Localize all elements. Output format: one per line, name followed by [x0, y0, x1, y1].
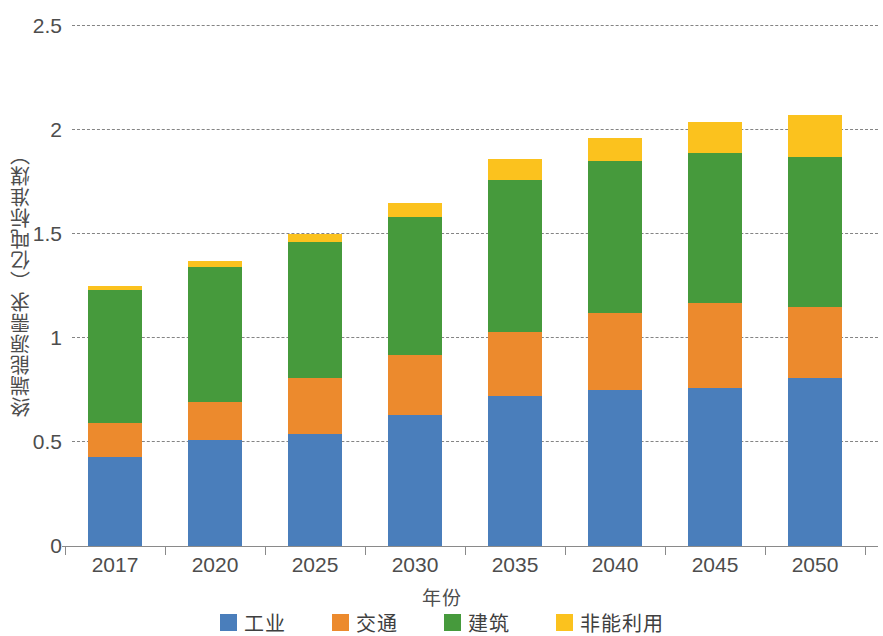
y-tick-label: 0: [6, 534, 62, 558]
x-tick-mark: [165, 546, 166, 555]
bar-segment-2030-工业[interactable]: [388, 415, 442, 546]
chart-legend: 工业交通建筑非能利用: [0, 608, 883, 636]
bar-segment-2050-交通[interactable]: [788, 307, 842, 378]
legend-swatch-icon: [332, 614, 349, 631]
x-axis-title: 年份: [0, 583, 883, 610]
bar-segment-2017-建筑[interactable]: [88, 290, 142, 423]
x-tick-label-2017: 2017: [70, 553, 160, 577]
y-axis-title-text: 终端能源需求（亿吨标准煤）: [6, 144, 35, 417]
y-tick-label: 2: [6, 118, 62, 142]
plot-area: [72, 26, 878, 546]
bar-segment-2025-交通[interactable]: [288, 378, 342, 434]
bar-segment-2040-建筑[interactable]: [588, 161, 642, 313]
x-tick-mark: [765, 546, 766, 555]
bar-segment-2050-非能利用[interactable]: [788, 115, 842, 157]
bar-segment-2017-工业[interactable]: [88, 457, 142, 546]
y-axis-title: 终端能源需求（亿吨标准煤）: [0, 0, 40, 560]
x-tick-mark: [65, 546, 66, 555]
bar-segment-2050-工业[interactable]: [788, 378, 842, 546]
bar-segment-2050-建筑[interactable]: [788, 157, 842, 307]
legend-item-交通[interactable]: 交通: [332, 608, 398, 636]
bar-segment-2045-工业[interactable]: [688, 388, 742, 546]
x-tick-mark: [565, 546, 566, 555]
legend-label: 建筑: [468, 608, 510, 636]
bar-segment-2025-非能利用[interactable]: [288, 234, 342, 242]
stacked-bar-chart: 终端能源需求（亿吨标准煤） 00.511.522.5 2017202020252…: [0, 0, 883, 636]
bar-segment-2025-建筑[interactable]: [288, 242, 342, 377]
bar-segment-2020-非能利用[interactable]: [188, 261, 242, 267]
x-tick-label-2025: 2025: [270, 553, 360, 577]
x-tick-label-2050: 2050: [770, 553, 860, 577]
bar-segment-2035-交通[interactable]: [488, 332, 542, 396]
y-tick-label: 1.5: [6, 222, 62, 246]
bar-segment-2045-建筑[interactable]: [688, 153, 742, 303]
x-axis-line: [62, 546, 878, 547]
legend-label: 非能利用: [580, 608, 664, 636]
legend-item-建筑[interactable]: 建筑: [444, 608, 510, 636]
bar-segment-2025-工业[interactable]: [288, 434, 342, 546]
x-tick-mark: [365, 546, 366, 555]
bar-segment-2030-非能利用[interactable]: [388, 203, 442, 218]
gridline-2: [72, 129, 878, 130]
bar-segment-2030-建筑[interactable]: [388, 217, 442, 354]
legend-item-工业[interactable]: 工业: [220, 608, 286, 636]
x-tick-mark: [465, 546, 466, 555]
x-tick-label-2030: 2030: [370, 553, 460, 577]
bar-segment-2017-非能利用[interactable]: [88, 286, 142, 290]
x-tick-mark: [665, 546, 666, 555]
legend-swatch-icon: [556, 614, 573, 631]
x-tick-mark: [865, 546, 866, 555]
y-tick-label: 2.5: [6, 14, 62, 38]
legend-swatch-icon: [444, 614, 461, 631]
bar-segment-2020-交通[interactable]: [188, 402, 242, 439]
bar-segment-2045-非能利用[interactable]: [688, 122, 742, 153]
x-tick-mark: [265, 546, 266, 555]
bar-segment-2040-交通[interactable]: [588, 313, 642, 390]
bar-segment-2035-非能利用[interactable]: [488, 159, 542, 180]
legend-label: 交通: [356, 608, 398, 636]
bar-segment-2035-建筑[interactable]: [488, 180, 542, 332]
bar-segment-2040-工业[interactable]: [588, 390, 642, 546]
bar-segment-2030-交通[interactable]: [388, 355, 442, 415]
legend-swatch-icon: [220, 614, 237, 631]
legend-item-非能利用[interactable]: 非能利用: [556, 608, 664, 636]
bar-segment-2020-建筑[interactable]: [188, 267, 242, 402]
y-tick-label: 0.5: [6, 430, 62, 454]
x-tick-label-2040: 2040: [570, 553, 660, 577]
bar-segment-2040-非能利用[interactable]: [588, 138, 642, 161]
y-tick-label: 1: [6, 326, 62, 350]
x-tick-label-2045: 2045: [670, 553, 760, 577]
gridline-2.5: [72, 25, 878, 26]
gridline-1.5: [72, 233, 878, 234]
x-tick-label-2020: 2020: [170, 553, 260, 577]
bar-segment-2017-交通[interactable]: [88, 423, 142, 456]
bar-segment-2020-工业[interactable]: [188, 440, 242, 546]
legend-label: 工业: [244, 608, 286, 636]
bar-segment-2035-工业[interactable]: [488, 396, 542, 546]
bar-segment-2045-交通[interactable]: [688, 303, 742, 388]
x-tick-label-2035: 2035: [470, 553, 560, 577]
